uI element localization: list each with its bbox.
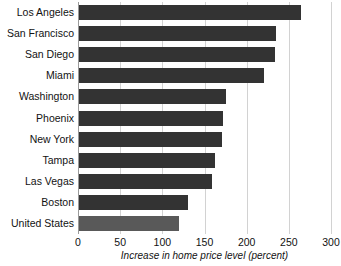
category-label: San Diego <box>0 47 74 62</box>
bar-row[interactable] <box>78 2 331 23</box>
tick-label: 50 <box>114 236 126 249</box>
tick-label: 200 <box>238 236 256 249</box>
category-label: Miami <box>0 68 74 83</box>
bar-row[interactable] <box>78 129 331 150</box>
bar[interactable] <box>78 195 188 210</box>
plot-area <box>78 2 331 234</box>
category-label: United States <box>0 216 74 231</box>
category-axis-labels: Los AngelesSan FranciscoSan DiegoMiamiWa… <box>0 2 74 234</box>
bar-row[interactable] <box>78 108 331 129</box>
tick-label: 250 <box>280 236 298 249</box>
bar-row[interactable] <box>78 86 331 107</box>
bar-row[interactable] <box>78 150 331 171</box>
bar[interactable] <box>78 174 212 189</box>
bar-row[interactable] <box>78 65 331 86</box>
category-label: Boston <box>0 195 74 210</box>
bar-row[interactable] <box>78 44 331 65</box>
bar-row[interactable] <box>78 23 331 44</box>
gridline <box>331 2 332 234</box>
tick-label: 100 <box>154 236 172 249</box>
bar[interactable] <box>78 5 301 20</box>
category-label: Las Vegas <box>0 174 74 189</box>
category-label: Phoenix <box>0 111 74 126</box>
bar[interactable] <box>78 68 264 83</box>
bar[interactable] <box>78 89 226 104</box>
tick-label: 0 <box>75 236 81 249</box>
bar-row[interactable] <box>78 192 331 213</box>
category-label: Washington <box>0 89 74 104</box>
category-label: New York <box>0 132 74 147</box>
bar[interactable] <box>78 47 275 62</box>
value-axis-line <box>78 2 79 234</box>
category-label: Tampa <box>0 153 74 168</box>
category-label: San Francisco <box>0 26 74 41</box>
tick-label: 150 <box>196 236 214 249</box>
tick-label: 300 <box>322 236 340 249</box>
category-label: Los Angeles <box>0 5 74 20</box>
home-price-bar-chart: Los AngelesSan FranciscoSan DiegoMiamiWa… <box>0 0 341 266</box>
plot-wrapper: Los AngelesSan FranciscoSan DiegoMiamiWa… <box>0 0 341 266</box>
bar-row[interactable] <box>78 213 331 234</box>
xaxis-title: Increase in home price level (percent) <box>78 250 331 261</box>
bar-row[interactable] <box>78 171 331 192</box>
bar[interactable] <box>78 111 223 126</box>
bar[interactable] <box>78 132 222 147</box>
bar[interactable] <box>78 153 215 168</box>
value-axis-tick-labels: 050100150200250300 <box>0 236 341 250</box>
bar[interactable] <box>78 216 179 231</box>
bar[interactable] <box>78 26 276 41</box>
